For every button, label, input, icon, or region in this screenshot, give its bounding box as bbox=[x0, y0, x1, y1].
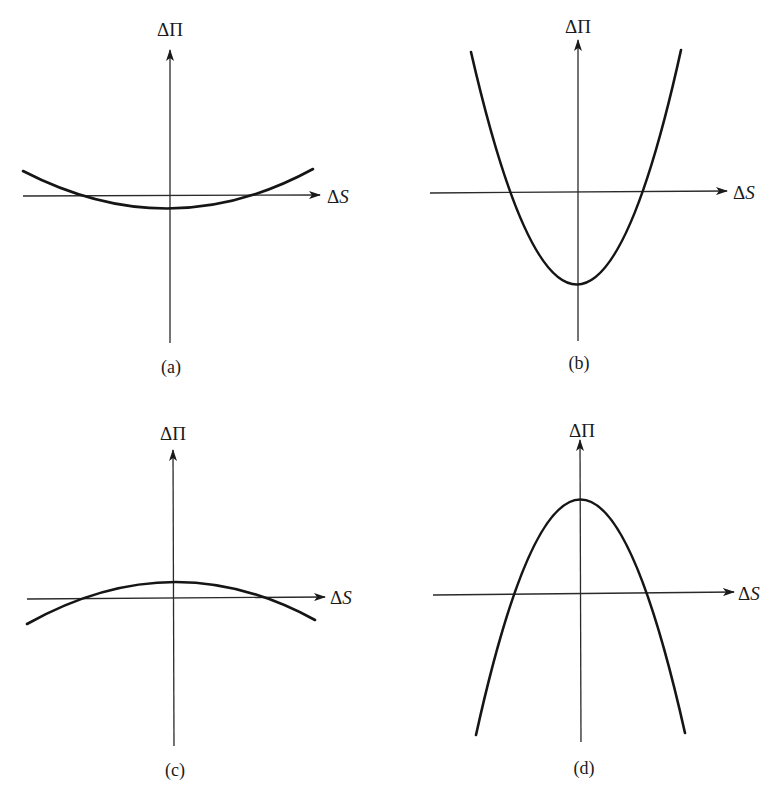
y-axis-label: ΔΠ bbox=[160, 423, 186, 444]
y-axis-label: ΔΠ bbox=[569, 420, 595, 441]
panel-caption: (d) bbox=[574, 758, 595, 779]
panel-d: ΔΠ ΔS (d) bbox=[433, 420, 760, 779]
panel-c: ΔΠ ΔS (c) bbox=[27, 423, 352, 781]
x-axis bbox=[23, 195, 320, 196]
parabola-curve bbox=[27, 582, 315, 624]
parabola-curve bbox=[471, 50, 681, 285]
x-axis bbox=[433, 592, 734, 595]
panel-caption: (a) bbox=[161, 357, 181, 378]
y-axis bbox=[580, 440, 581, 742]
x-axis bbox=[27, 597, 325, 599]
figure-four-panels: ΔΠ ΔS (a) ΔΠ ΔS (b) ΔΠ ΔS (c) ΔΠ bbox=[0, 0, 777, 792]
x-axis-label: ΔS bbox=[327, 186, 349, 207]
y-axis-label: ΔΠ bbox=[157, 19, 183, 40]
x-axis-label: ΔS bbox=[733, 182, 755, 203]
parabola-curve bbox=[23, 169, 313, 209]
panel-b: ΔΠ ΔS (b) bbox=[430, 16, 755, 374]
panel-caption: (b) bbox=[569, 353, 590, 374]
x-axis-label: ΔS bbox=[738, 583, 760, 604]
y-axis-label: ΔΠ bbox=[565, 16, 591, 37]
figure-canvas: ΔΠ ΔS (a) ΔΠ ΔS (b) ΔΠ ΔS (c) ΔΠ bbox=[0, 0, 777, 792]
x-axis-label: ΔS bbox=[330, 587, 352, 608]
panel-caption: (c) bbox=[165, 760, 185, 781]
panel-a: ΔΠ ΔS (a) bbox=[23, 19, 349, 378]
